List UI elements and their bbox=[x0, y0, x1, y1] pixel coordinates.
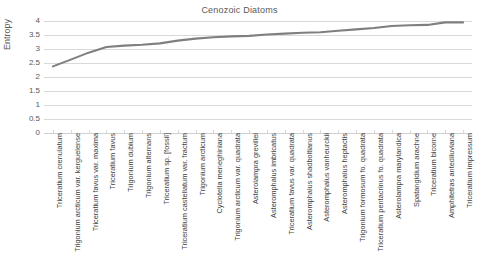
y-tick-label: 2 bbox=[36, 73, 40, 81]
x-axis-tick bbox=[178, 130, 179, 133]
x-axis-label: Triceratium favus var. quadrata bbox=[288, 133, 295, 235]
y-tick-label: 0 bbox=[36, 129, 40, 137]
x-axis-label: Trigonium arcticum var. kerguelense bbox=[74, 133, 81, 252]
x-axis-label: Triceratium bicorne bbox=[430, 133, 437, 196]
x-axis-tick bbox=[196, 130, 197, 133]
x-axis-label: Trigonium dubium bbox=[127, 133, 134, 192]
x-axis-label: Asteromphalus vanheurckii bbox=[323, 133, 330, 222]
x-axis-tick bbox=[249, 130, 250, 133]
chart-container: Cenozoic Diatoms Entropy 43.532.521.510.… bbox=[0, 0, 479, 276]
x-axis-label: Triceratium castellatum var. fractum bbox=[181, 133, 188, 250]
x-axis-label: Trigonium formosum fo. quadrata bbox=[359, 133, 366, 242]
x-axis-tick bbox=[374, 130, 375, 133]
x-axis-label: Triceratium favus var. maxima bbox=[92, 133, 99, 231]
y-axis-title: Entropy bbox=[2, 19, 12, 50]
plot-area: 43.532.521.510.50 bbox=[44, 21, 472, 133]
x-axis-label: Triceratium favus bbox=[109, 133, 116, 189]
x-axis-tick bbox=[463, 130, 464, 133]
x-axis-tick bbox=[356, 130, 357, 133]
x-axis-label: Trigonium alternans bbox=[145, 133, 152, 198]
x-axis-label: Asterolampra grevillei bbox=[252, 133, 259, 204]
x-axis-tick bbox=[71, 130, 72, 133]
x-axis-label: Cyclotella meneghiniana bbox=[216, 133, 223, 214]
y-tick-label: 0.5 bbox=[29, 115, 40, 123]
x-axis-label: Asteromphalus heptactis bbox=[341, 133, 348, 214]
chart-title: Cenozoic Diatoms bbox=[0, 5, 479, 15]
y-tick-label: 1 bbox=[36, 101, 40, 109]
x-axis-label: Triceratium crenulatum bbox=[56, 133, 63, 208]
entropy-line-series bbox=[44, 21, 472, 133]
y-tick-label: 2.5 bbox=[29, 59, 40, 67]
y-tick-label: 3 bbox=[36, 45, 40, 53]
x-axis-label: Amphitetras antediluviana bbox=[448, 133, 455, 218]
x-axis-label: Trigonium arcticum var. quadrata bbox=[234, 133, 241, 241]
x-axis-label: Asterolampra marylandica bbox=[395, 133, 402, 219]
x-axis-tick bbox=[392, 130, 393, 133]
y-tick-label: 1.5 bbox=[29, 87, 40, 95]
x-axis-tick bbox=[267, 130, 268, 133]
x-axis-label: Triceratium pentacrinus fo. quadrata bbox=[377, 133, 384, 251]
x-axis-label: Trigonium arcticum bbox=[199, 133, 206, 196]
x-axis-labels-group: Triceratium crenulatumTrigonium arcticum… bbox=[44, 133, 472, 276]
x-axis-tick bbox=[160, 130, 161, 133]
x-axis-tick bbox=[303, 130, 304, 133]
y-tick-label: 3.5 bbox=[29, 31, 40, 39]
x-axis-label: Asteromphalus imbricatus bbox=[270, 133, 277, 218]
x-axis-tick bbox=[410, 130, 411, 133]
x-axis-label: Triceratium sp. [fossil] bbox=[163, 133, 170, 205]
y-tick-label: 4 bbox=[36, 17, 40, 25]
x-axis-tick bbox=[142, 130, 143, 133]
x-axis-tick bbox=[89, 130, 90, 133]
x-axis-label: Spatangidium arachne bbox=[413, 133, 420, 207]
x-axis-label: Asteromphalus shadboltianus bbox=[306, 133, 313, 230]
x-axis-label: Triceratium impressum bbox=[466, 133, 473, 208]
x-axis-tick bbox=[285, 130, 286, 133]
x-axis-tick bbox=[53, 130, 54, 133]
